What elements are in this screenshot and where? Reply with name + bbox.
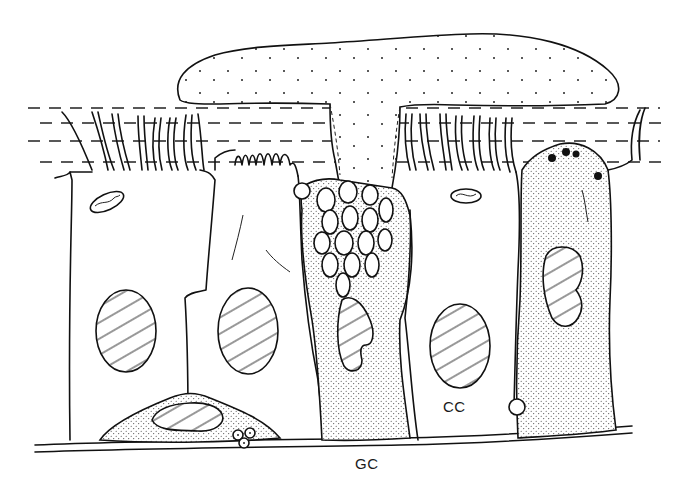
nucleus — [96, 290, 156, 372]
nucleus — [430, 304, 490, 388]
granule-cluster — [509, 399, 525, 415]
granule-cluster — [294, 183, 310, 199]
ciliated-cell-1 — [55, 172, 72, 440]
label-gc: GC — [355, 455, 379, 472]
mitochondrion — [451, 189, 481, 203]
nucleus — [218, 288, 278, 374]
epithelium-diagram — [0, 0, 689, 496]
microvilli-group — [235, 154, 298, 176]
label-cc: CC — [443, 398, 466, 415]
